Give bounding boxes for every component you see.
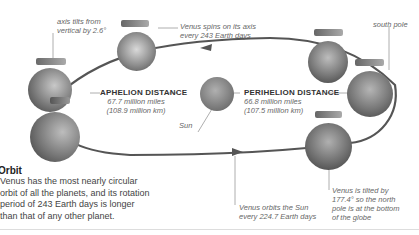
perihelion-title: PERIHELION DISTANCE bbox=[244, 88, 339, 97]
sun bbox=[200, 77, 234, 111]
orbit-info: Orbit Venus has the most nearly circular… bbox=[0, 165, 150, 222]
aphelion-miles: 67.7 million miles bbox=[100, 97, 172, 106]
spin-disc-icon bbox=[50, 97, 70, 104]
south-pole-label: south pole bbox=[373, 20, 408, 29]
perihelion-km: (107.5 million km) bbox=[244, 106, 339, 115]
orbit-arrow-top bbox=[200, 44, 212, 51]
spin-disc-icon bbox=[314, 29, 343, 36]
venus-globe-right-top bbox=[308, 41, 348, 83]
sun-label: Sun bbox=[179, 121, 192, 130]
spin-disc-icon bbox=[355, 59, 384, 66]
spin-disc-icon bbox=[36, 58, 66, 65]
venus-globe-bottom-right bbox=[305, 123, 352, 170]
aphelion-label: APHELION DISTANCE 67.7 million miles (10… bbox=[100, 88, 172, 115]
orbit-body: Venus has the most nearly circular orbit… bbox=[0, 176, 150, 222]
orbit-arrow-bottom bbox=[232, 148, 243, 156]
venus-globe-right bbox=[347, 71, 393, 117]
perihelion-label: PERIHELION DISTANCE 66.8 million miles (… bbox=[244, 88, 339, 115]
perihelion-miles: 66.8 million miles bbox=[244, 97, 339, 106]
aphelion-title: APHELION DISTANCE bbox=[100, 88, 172, 97]
venus-globe-bottom-left bbox=[30, 112, 80, 162]
orbit-period-label: Venus orbits the Sun every 224.7 Earth d… bbox=[239, 203, 316, 221]
divider bbox=[0, 229, 419, 230]
tilt-177-label: Venus is tilted by 177.4° so the north p… bbox=[332, 186, 400, 222]
aphelion-km: (108.9 million km) bbox=[100, 106, 172, 115]
spin-disc-icon bbox=[121, 20, 149, 27]
spin-label: Venus spins on its axis every 243 Earth … bbox=[180, 22, 256, 40]
venus-globe-top-left bbox=[28, 68, 72, 112]
venus-globe-top bbox=[117, 32, 156, 71]
axis-tilt-label: axis tilts from vertical by 2.6° bbox=[57, 17, 106, 35]
orbit-title: Orbit bbox=[0, 165, 150, 176]
